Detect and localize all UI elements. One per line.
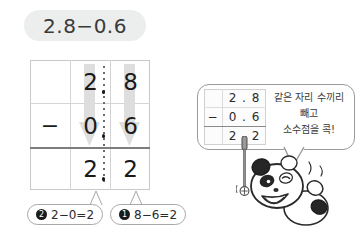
table-cell-ones-row2: 0 xyxy=(71,104,110,147)
table-cell-operator-row2: − xyxy=(30,104,70,147)
mini-cell-operator-row2: − xyxy=(204,108,222,126)
panda-character xyxy=(243,150,335,236)
table-cell-operator-row1 xyxy=(30,60,70,103)
step-badge: 1 xyxy=(119,209,130,220)
step-badge: 2 xyxy=(36,209,47,220)
instruction-line-1: 같은 자리 수끼리 xyxy=(268,90,350,106)
mini-cell-operator-row3 xyxy=(204,127,222,145)
callout-step-2-text: 2−0=2 xyxy=(51,208,94,222)
mini-subtraction-table: 2 . 8 − 0 . 6 2 . 2 xyxy=(204,89,266,145)
mini-cell-value-row1: 2 . 8 xyxy=(223,89,266,107)
decimal-point-row1 xyxy=(102,90,106,94)
instruction-line-3: 소수점을 콕! xyxy=(268,122,350,138)
mini-cell-operator-row1 xyxy=(204,89,222,107)
callout-step-1-text: 8−6=2 xyxy=(134,208,177,222)
table-cell-tenths-row2: 6 xyxy=(111,104,150,147)
mini-cell-value-row2: 0 . 6 xyxy=(223,108,266,126)
table-cell-ones-row3: 2 xyxy=(71,148,110,190)
callout-step-2: 2 2−0=2 xyxy=(27,204,103,225)
table-cell-operator-row3 xyxy=(30,148,70,190)
instruction-line-2: 빼고 xyxy=(268,106,350,122)
table-cell-ones-row1: 2 xyxy=(71,60,110,103)
expression-title-pill: 2.8−0.6 xyxy=(24,10,146,41)
callout-step-1: 1 8−6=2 xyxy=(110,204,186,225)
decimal-point-row3 xyxy=(102,177,106,181)
table-cell-tenths-row1: 8 xyxy=(111,60,150,103)
table-cell-tenths-row3: 2 xyxy=(111,148,150,190)
decimal-point-row2 xyxy=(102,134,106,138)
expression-title-text: 2.8−0.6 xyxy=(43,14,127,38)
instruction-text: 같은 자리 수끼리 빼고 소수점을 콕! xyxy=(268,90,350,138)
vertical-subtraction-table: 2 8 − 0 6 2 2 xyxy=(30,60,150,190)
